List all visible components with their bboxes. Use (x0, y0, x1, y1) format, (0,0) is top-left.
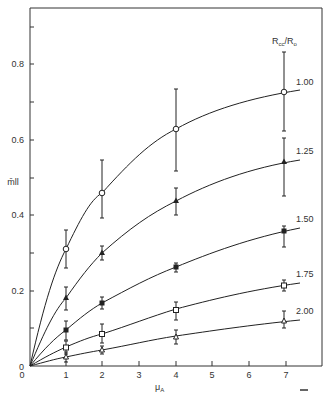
svg-text:2: 2 (99, 370, 104, 380)
svg-text:0.6: 0.6 (11, 135, 24, 145)
error-bars (64, 52, 286, 362)
curve-1.25 (30, 160, 300, 366)
legend-title: Rcc/Ro (272, 36, 298, 47)
y-tick-labels: 0 0.2 0.4 0.6 0.8 (11, 59, 24, 372)
svg-text:2.00: 2.00 (296, 306, 314, 316)
y-axis-label: m̄ll (7, 177, 19, 187)
svg-text:1.50: 1.50 (296, 214, 314, 224)
y-ticks (30, 27, 34, 328)
svg-text:0.8: 0.8 (11, 59, 24, 69)
chart: 0 0.2 0.4 0.6 0.8 m̄ll 0 1 2 3 4 5 6 7 μ… (0, 0, 330, 394)
markers-1.50 (64, 229, 287, 333)
svg-text:0.2: 0.2 (11, 286, 24, 296)
markers-2.00 (64, 318, 287, 359)
svg-text:6: 6 (246, 370, 251, 380)
markers-1.75 (64, 283, 287, 350)
svg-text:7: 7 (283, 370, 288, 380)
svg-text:4: 4 (173, 370, 178, 380)
svg-text:1: 1 (63, 370, 68, 380)
markers-1.25 (63, 159, 287, 301)
svg-text:0: 0 (19, 370, 24, 380)
x-axis-label: μA (155, 382, 164, 393)
curves (30, 90, 300, 366)
svg-text:1.00: 1.00 (296, 77, 314, 87)
svg-text:0.4: 0.4 (11, 210, 24, 220)
x-ticks (66, 361, 286, 366)
series-labels: 1.00 1.25 1.50 1.75 2.00 (296, 77, 314, 316)
svg-text:3: 3 (136, 370, 141, 380)
curve-2.00 (30, 320, 300, 366)
svg-text:1.25: 1.25 (296, 146, 314, 156)
svg-text:1.75: 1.75 (296, 269, 314, 279)
svg-text:5: 5 (209, 370, 214, 380)
x-tick-labels: 0 1 2 3 4 5 6 7 (19, 370, 288, 380)
